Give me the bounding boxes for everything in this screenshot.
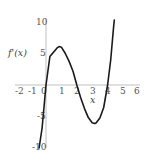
y-axis-label: f'(x) [7,47,27,58]
derivative-curve [39,20,114,148]
x-tick: 5 [120,86,126,96]
x-tick: -1 [28,86,37,96]
y-tick: 5 [40,48,46,58]
x-tick: 6 [134,86,140,96]
y-tick: -5 [37,111,46,121]
chart-plot: -2 -1 0 1 2 3 4 5 6 10 5 -5 -10 f'(x) x [0,0,146,159]
x-tick: -2 [15,86,24,96]
x-axis-label: x [90,94,96,105]
x-tick: 1 [59,86,65,96]
y-tick: 10 [36,17,48,27]
